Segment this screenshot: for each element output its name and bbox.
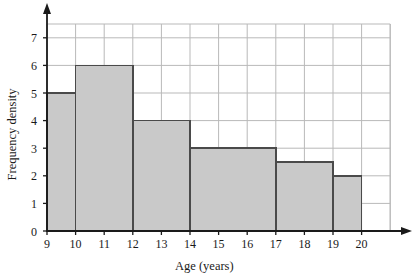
histogram-bar (190, 148, 276, 231)
x-tick-label: 16 (241, 237, 253, 251)
x-tick-label: 10 (70, 237, 82, 251)
y-tick-label: 5 (31, 87, 37, 101)
histogram-chart: 91011121314151617181920 01234567 Age (ye… (0, 0, 414, 278)
x-tick-label: 18 (298, 237, 310, 251)
x-tick-label: 14 (184, 237, 196, 251)
x-tick-label: 12 (127, 237, 139, 251)
histogram-bar (276, 162, 333, 231)
x-tick-label: 11 (98, 237, 110, 251)
histogram-bar (76, 65, 133, 231)
histogram-bar (333, 176, 362, 231)
x-tick-label: 19 (327, 237, 339, 251)
y-tick-label: 2 (31, 169, 37, 183)
x-tick-label: 13 (155, 237, 167, 251)
y-tick-label: 7 (31, 31, 37, 45)
y-axis-title: Frequency density (5, 88, 19, 181)
x-tick-label: 17 (270, 237, 282, 251)
x-tick-label: 20 (356, 237, 368, 251)
y-tick-label: 1 (31, 197, 37, 211)
y-tick-label: 6 (31, 59, 37, 73)
y-tick-label: 3 (31, 142, 37, 156)
x-tick-label: 15 (213, 237, 225, 251)
x-axis-title: Age (years) (175, 259, 234, 273)
histogram-bar (47, 93, 76, 231)
x-tick-label: 9 (44, 237, 50, 251)
histogram-svg: 91011121314151617181920 01234567 Age (ye… (0, 0, 414, 278)
histogram-bar (133, 121, 190, 231)
y-tick-label: 4 (31, 114, 37, 128)
y-tick-label: 0 (31, 225, 37, 239)
